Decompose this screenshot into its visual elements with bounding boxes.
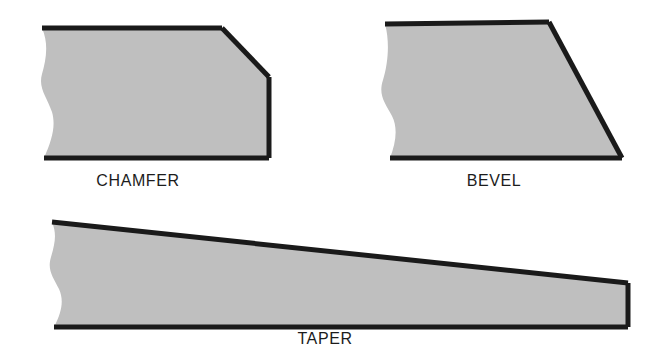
bevel-outline-segment-0 xyxy=(385,22,549,24)
shape-chamfer xyxy=(41,28,269,158)
figure-canvas: CHAMFERBEVELTAPER xyxy=(0,0,660,358)
taper-label: TAPER xyxy=(297,330,352,347)
machining-features-diagram: CHAMFERBEVELTAPER xyxy=(0,0,660,358)
chamfer-label: CHAMFER xyxy=(96,172,179,189)
bevel-label: BEVEL xyxy=(467,172,522,189)
chamfer-body xyxy=(41,28,269,158)
